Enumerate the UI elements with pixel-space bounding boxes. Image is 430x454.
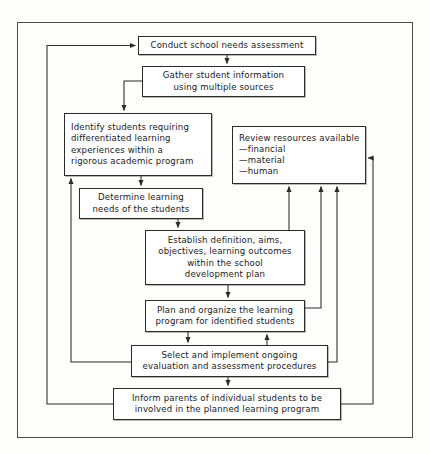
node-plan-label: Plan and organize the learning program f… <box>149 305 301 327</box>
node-plan-and-organize-learning-program[interactable]: Plan and organize the learning program f… <box>145 300 305 332</box>
flowchart-canvas: Conduct school needs assessment Gather s… <box>0 0 430 454</box>
node-inform-label: Inform parents of individual students to… <box>117 393 337 415</box>
node-review-resources-available[interactable]: Review resources available —financial —m… <box>232 126 366 184</box>
node-select-label: Select and implement ongoing evaluation … <box>135 350 324 372</box>
node-identify-label: Identify students requiring differentiat… <box>71 122 208 167</box>
node-gather-student-information[interactable]: Gather student information using multipl… <box>142 66 305 97</box>
node-gather-label: Gather student information using multipl… <box>146 70 301 92</box>
connector-inform-to-review <box>341 158 373 404</box>
node-determine-label: Determine learning needs of the students <box>83 192 199 214</box>
node-review-label: Review resources available —financial —m… <box>239 133 362 178</box>
node-determine-learning-needs[interactable]: Determine learning needs of the students <box>79 188 203 219</box>
node-select-and-implement-evaluation[interactable]: Select and implement ongoing evaluation … <box>131 345 328 377</box>
connector-inform-to-conduct <box>47 46 136 405</box>
node-inform-parents-of-students[interactable]: Inform parents of individual students to… <box>113 388 341 420</box>
node-conduct-label: Conduct school needs assessment <box>142 40 312 51</box>
connector-plan-to-review <box>305 187 321 309</box>
node-identify-students-requiring[interactable]: Identify students requiring differentiat… <box>64 113 212 176</box>
connector-select-to-review <box>328 187 337 363</box>
node-establish-definition-aims[interactable]: Establish definition, aims, objectives, … <box>145 230 305 285</box>
connector-gather-to-identify <box>124 81 142 111</box>
node-conduct-school-needs-assessment[interactable]: Conduct school needs assessment <box>138 36 316 55</box>
node-establish-label: Establish definition, aims, objectives, … <box>149 235 301 280</box>
